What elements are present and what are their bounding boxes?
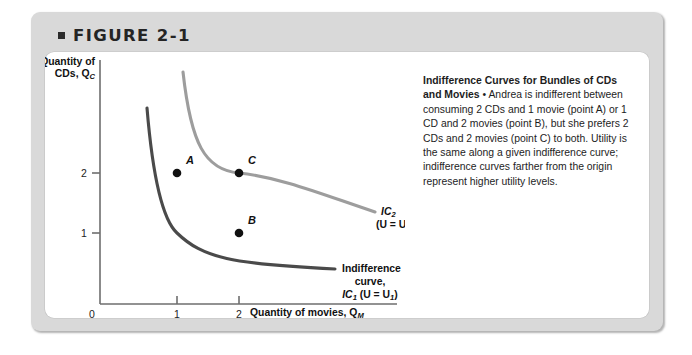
figure-root: FIGURE 2-1 bbox=[0, 0, 692, 355]
origin-label: 0 bbox=[89, 308, 95, 318]
point-c-label: C bbox=[248, 154, 257, 166]
point-c-dot bbox=[235, 169, 244, 178]
figure-title: FIGURE 2-1 bbox=[58, 26, 191, 45]
chart-tick-labels: 2 1 1 2 0 bbox=[81, 167, 242, 318]
x-tick-label-1: 1 bbox=[174, 308, 180, 318]
x-tick-label-2: 2 bbox=[236, 308, 242, 318]
curve-ic1-label-line3: IC1 (U = U1) bbox=[342, 289, 398, 302]
figure-caption: Indifference Curves for Bundles of CDs a… bbox=[423, 74, 635, 189]
y-axis-title-line1: Quantity of bbox=[45, 56, 96, 67]
curve-ic2-label-line1: IC2 bbox=[381, 206, 396, 219]
figure-card: 2 1 1 2 0 Quantity of CDs, QC Quantity o… bbox=[45, 52, 649, 318]
square-bullet-icon bbox=[58, 32, 65, 39]
y-axis-title-line2: CDs, QC bbox=[55, 68, 96, 81]
y-tick-label-1: 1 bbox=[81, 227, 87, 239]
curve-ic1-label-line2: curve, bbox=[355, 276, 386, 287]
chart-ticks bbox=[92, 173, 239, 304]
data-point-a: A bbox=[173, 154, 194, 177]
curve-ic2 bbox=[183, 72, 375, 212]
data-point-b: B bbox=[235, 214, 256, 237]
point-a-label: A bbox=[185, 154, 194, 166]
y-tick-label-2: 2 bbox=[81, 167, 87, 179]
curve-ic2-label-line2: (U = U2) bbox=[376, 219, 405, 232]
chart-svg: 2 1 1 2 0 Quantity of CDs, QC Quantity o… bbox=[45, 52, 405, 318]
y-axis-title: Quantity of CDs, QC bbox=[45, 56, 96, 81]
curve-ic1-label: Indifference curve, IC1 (U = U1) bbox=[342, 263, 401, 302]
curve-ic1-label-line1: Indifference bbox=[342, 263, 401, 274]
point-a-dot bbox=[173, 169, 182, 178]
indifference-curve-chart: 2 1 1 2 0 Quantity of CDs, QC Quantity o… bbox=[45, 52, 405, 318]
point-b-dot bbox=[235, 229, 244, 238]
point-b-label: B bbox=[248, 214, 256, 226]
figure-panel: FIGURE 2-1 bbox=[31, 12, 663, 331]
caption-body: Andrea is indifferent between consuming … bbox=[423, 89, 629, 186]
figure-title-text: FIGURE 2-1 bbox=[73, 26, 191, 45]
x-axis-title: Quantity of movies, QM bbox=[250, 307, 364, 318]
curve-ic2-label: IC2 (U = U2) bbox=[376, 206, 405, 232]
